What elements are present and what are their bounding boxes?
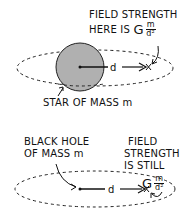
annotation-strength: STRENGTH [124,148,180,159]
black-hole-label: BLACK HOLE OF MASS m [24,136,89,159]
fraction-denominator: d² [146,30,156,38]
top-panel-graphics [17,43,173,96]
annotation-is-still: IS STILL [124,160,180,171]
gravitational-constant: G [133,22,143,37]
black-hole-label-line-1: BLACK HOLE [24,136,89,147]
gravitational-constant: G [142,176,152,191]
field-strength-annotation-top: FIELD STRENGTH HERE IS Gmd² [89,9,178,38]
fraction-denominator: d² [154,184,164,192]
annotation-here-is: HERE IS [89,24,130,35]
black-hole-label-line-2: OF MASS m [24,148,89,159]
mass-over-distance-fraction: md² [154,175,164,192]
annotation-line-2: HERE IS Gmd² [89,21,178,38]
distance-label-bottom: d [108,184,115,195]
field-strength-annotation-bottom: FIELD STRENGTH IS STILL [124,136,180,171]
star-mass-label: STAR OF MASS m [43,97,132,108]
annotation-line-1: FIELD STRENGTH [89,9,178,20]
mass-over-distance-fraction: md² [146,21,156,38]
formula-bottom: Gmd² [142,175,164,192]
distance-label-top: d [110,62,117,73]
annotation-field: FIELD [124,136,180,147]
